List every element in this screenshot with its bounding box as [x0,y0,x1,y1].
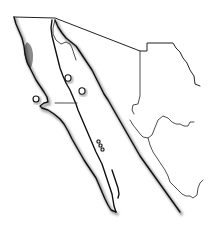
sonora-chihuahua-border [132,51,140,114]
island-angel-de-la-guarda [65,75,71,81]
sonora-sinaloa-border [130,116,194,138]
island-cedros [33,96,39,102]
region-map [0,0,216,227]
international-border [14,17,200,86]
la-paz-bay [112,170,119,198]
island-tiburon [79,88,85,94]
map-container [0,0,216,227]
baja-gulf-coast [51,20,116,212]
island-cluster [97,140,104,151]
sinaloa-durango-border [148,138,203,198]
